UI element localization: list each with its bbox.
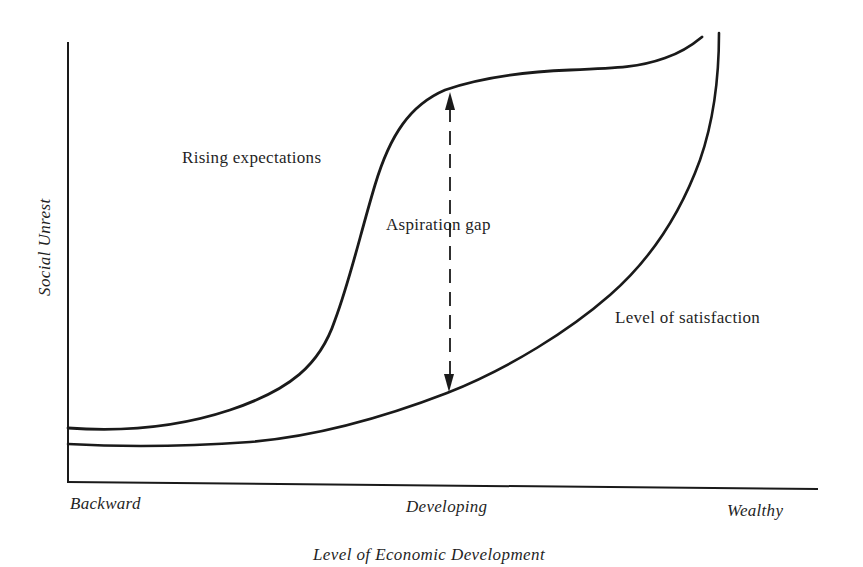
diagram: Rising expectations Aspiration gap Level… [0, 0, 863, 567]
y-axis-title: Social Unrest [36, 198, 53, 296]
aspiration-gap-arrow [444, 92, 455, 392]
rising-expectations-curve [68, 37, 702, 429]
arrowhead-up-icon [445, 92, 455, 110]
arrowhead-down-icon [444, 374, 454, 392]
level-of-satisfaction-label: Level of satisfaction [615, 309, 760, 326]
x-axis-line [67, 482, 818, 489]
rising-expectations-label: Rising expectations [182, 149, 321, 166]
level-of-satisfaction-curve [68, 33, 719, 446]
x-tick-developing: Developing [406, 498, 487, 515]
diagram-canvas [0, 0, 863, 567]
x-axis-title: Level of Economic Development [313, 546, 545, 563]
x-tick-wealthy: Wealthy [727, 502, 783, 519]
x-tick-backward: Backward [70, 495, 141, 512]
aspiration-gap-label: Aspiration gap [386, 216, 491, 233]
